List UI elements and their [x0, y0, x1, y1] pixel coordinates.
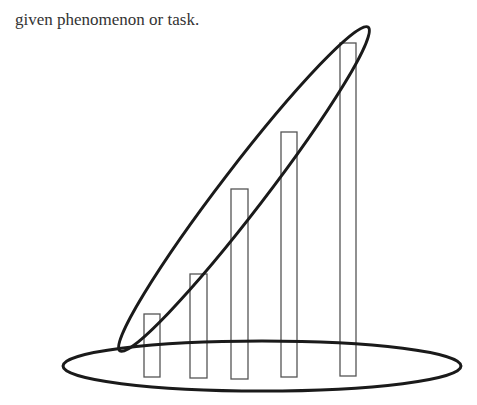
bar-3 [231, 189, 248, 379]
base-ellipse [63, 341, 461, 391]
bar-5 [340, 43, 356, 376]
bar-ellipse-diagram [0, 0, 477, 405]
bar-2 [190, 274, 207, 378]
bars [144, 43, 356, 379]
